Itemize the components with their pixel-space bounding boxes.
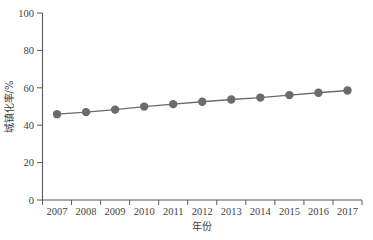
y-tick-label: 40 bbox=[24, 120, 35, 131]
x-axis-title: 年份 bbox=[192, 220, 212, 232]
x-axis-tick-labels: 2007200820092010201120122013201420152016… bbox=[47, 206, 358, 217]
y-axis-tick-labels: 0 20 40 60 80 100 bbox=[18, 8, 34, 206]
data-point-marker bbox=[111, 105, 119, 113]
data-point-marker bbox=[256, 93, 264, 101]
data-point-marker bbox=[140, 102, 148, 110]
x-tick-label: 2014 bbox=[250, 206, 272, 217]
x-tick-label: 2016 bbox=[308, 206, 329, 217]
x-tick-label: 2007 bbox=[47, 206, 68, 217]
y-tick-label: 0 bbox=[29, 195, 34, 206]
x-tick-label: 2015 bbox=[279, 206, 300, 217]
x-tick-label: 2008 bbox=[76, 206, 97, 217]
y-tick-label: 20 bbox=[24, 157, 35, 168]
y-axis-title: 城镇化率/% bbox=[3, 81, 15, 134]
series-markers bbox=[53, 86, 352, 118]
data-point-marker bbox=[227, 95, 235, 103]
urbanization-rate-line-chart: 0 20 40 60 80 100 2007200820092010201120… bbox=[0, 0, 373, 240]
data-point-marker bbox=[53, 110, 61, 118]
data-point-marker bbox=[314, 89, 322, 97]
y-tick-label: 100 bbox=[18, 8, 34, 19]
data-point-marker bbox=[82, 108, 90, 116]
x-tick-label: 2017 bbox=[337, 206, 358, 217]
chart-figure: 0 20 40 60 80 100 2007200820092010201120… bbox=[0, 0, 373, 240]
y-axis-ticks bbox=[37, 13, 43, 200]
data-point-marker bbox=[343, 86, 351, 94]
x-tick-label: 2012 bbox=[192, 206, 213, 217]
y-tick-label: 80 bbox=[24, 45, 35, 56]
data-point-marker bbox=[169, 100, 177, 108]
y-tick-label: 60 bbox=[24, 83, 35, 94]
x-tick-label: 2009 bbox=[105, 206, 126, 217]
x-tick-label: 2011 bbox=[163, 206, 184, 217]
x-axis-ticks bbox=[43, 200, 363, 205]
data-point-marker bbox=[198, 97, 206, 105]
data-point-marker bbox=[285, 91, 293, 99]
x-tick-label: 2010 bbox=[134, 206, 155, 217]
x-tick-label: 2013 bbox=[221, 206, 242, 217]
